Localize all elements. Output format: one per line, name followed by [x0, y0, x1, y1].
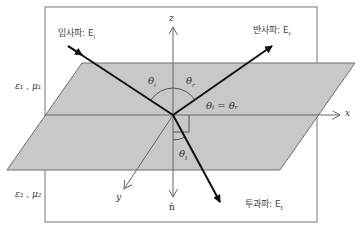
x-axis-label: x [345, 109, 350, 118]
theta-t-subscript: t [185, 154, 187, 161]
y-axis-label: y [116, 193, 121, 202]
reflected-wave-label: 반사파: Er [253, 26, 291, 37]
theta-t-label: θt [179, 149, 187, 161]
normal-label: n̂ [169, 203, 175, 212]
theta-i-label: θi [148, 76, 156, 88]
theta-r-subscript: r [192, 81, 195, 88]
theta-i-subscript: i [154, 81, 156, 88]
wave-reflection-diagram [0, 0, 361, 229]
reflected-subscript: r [289, 30, 291, 37]
medium2-label: ε₂ , μ₂ [15, 190, 41, 199]
transmitted-wave-label: 투과파: Et [245, 200, 283, 211]
medium1-label: ε₁ , μ₁ [15, 82, 41, 91]
incident-subscript: i [94, 33, 96, 40]
theta-r-label: θr [186, 76, 195, 88]
incident-wave-text: 입사파: E [58, 28, 94, 38]
law-of-reflection-label: θᵢ = θᵣ [206, 101, 238, 111]
transmitted-subscript: t [281, 204, 283, 211]
reflected-wave-text: 반사파: E [253, 25, 289, 35]
incident-wave-label: 입사파: Ei [58, 29, 95, 40]
z-axis-label: z [169, 14, 174, 23]
transmitted-wave-text: 투과파: E [245, 199, 281, 209]
